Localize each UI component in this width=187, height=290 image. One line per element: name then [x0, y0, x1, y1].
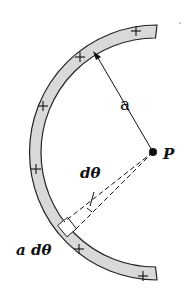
radius-label: a: [120, 94, 130, 114]
arc-length-label: a dθ: [16, 241, 51, 259]
angle-label: dθ: [80, 164, 101, 182]
dashed-line-upper: [64, 152, 153, 222]
point-label: P: [162, 145, 175, 163]
point-p-dot: [149, 148, 157, 156]
dtheta-bracket: [87, 208, 92, 212]
speck: [179, 22, 181, 24]
charged-arc-diagram: a P dθ a dθ: [0, 0, 187, 290]
